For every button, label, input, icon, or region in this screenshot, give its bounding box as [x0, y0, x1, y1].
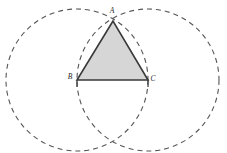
geometry-figure: A B C: [0, 0, 227, 153]
geometry-canvas: A B C: [0, 0, 227, 153]
triangle-ABC: [77, 21, 148, 80]
vertex-label-B: B: [68, 72, 73, 81]
vertex-label-C: C: [150, 74, 156, 83]
vertex-label-A: A: [109, 6, 115, 15]
